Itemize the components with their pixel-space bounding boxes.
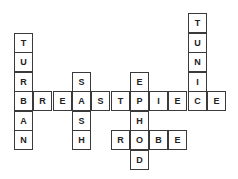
crossword-cell[interactable]: A (14, 111, 33, 131)
crossword-cell[interactable]: E (130, 72, 149, 92)
crossword-cell[interactable]: T (188, 13, 207, 33)
crossword-cell[interactable]: S (72, 72, 91, 92)
crossword-cell[interactable]: N (14, 130, 33, 150)
crossword-grid: BREASTPIECEROBETURANSSHEHDTUNI (0, 0, 238, 179)
crossword-cell[interactable]: S (72, 111, 91, 131)
crossword-cell[interactable]: B (14, 91, 33, 111)
crossword-cell[interactable]: E (207, 91, 226, 111)
crossword-cell[interactable]: R (14, 72, 33, 92)
crossword-cell[interactable]: U (14, 52, 33, 72)
crossword-cell[interactable]: E (53, 91, 72, 111)
crossword-cell[interactable]: D (130, 150, 149, 170)
crossword-cell[interactable]: I (188, 72, 207, 92)
crossword-cell[interactable]: O (130, 130, 149, 150)
crossword-cell[interactable]: E (168, 91, 187, 111)
crossword-cell[interactable]: T (14, 33, 33, 53)
crossword-cell[interactable]: R (33, 91, 52, 111)
crossword-cell[interactable]: T (111, 91, 130, 111)
crossword-cell[interactable]: P (130, 91, 149, 111)
crossword-cell[interactable]: C (188, 91, 207, 111)
crossword-cell[interactable]: H (72, 130, 91, 150)
crossword-cell[interactable]: N (188, 52, 207, 72)
crossword-cell[interactable]: R (111, 130, 130, 150)
crossword-cell[interactable]: U (188, 33, 207, 53)
crossword-cell[interactable]: H (130, 111, 149, 131)
crossword-cell[interactable]: E (168, 130, 187, 150)
crossword-cell[interactable]: A (72, 91, 91, 111)
crossword-cell[interactable]: S (91, 91, 110, 111)
crossword-cell[interactable]: B (149, 130, 168, 150)
crossword-cell[interactable]: I (149, 91, 168, 111)
